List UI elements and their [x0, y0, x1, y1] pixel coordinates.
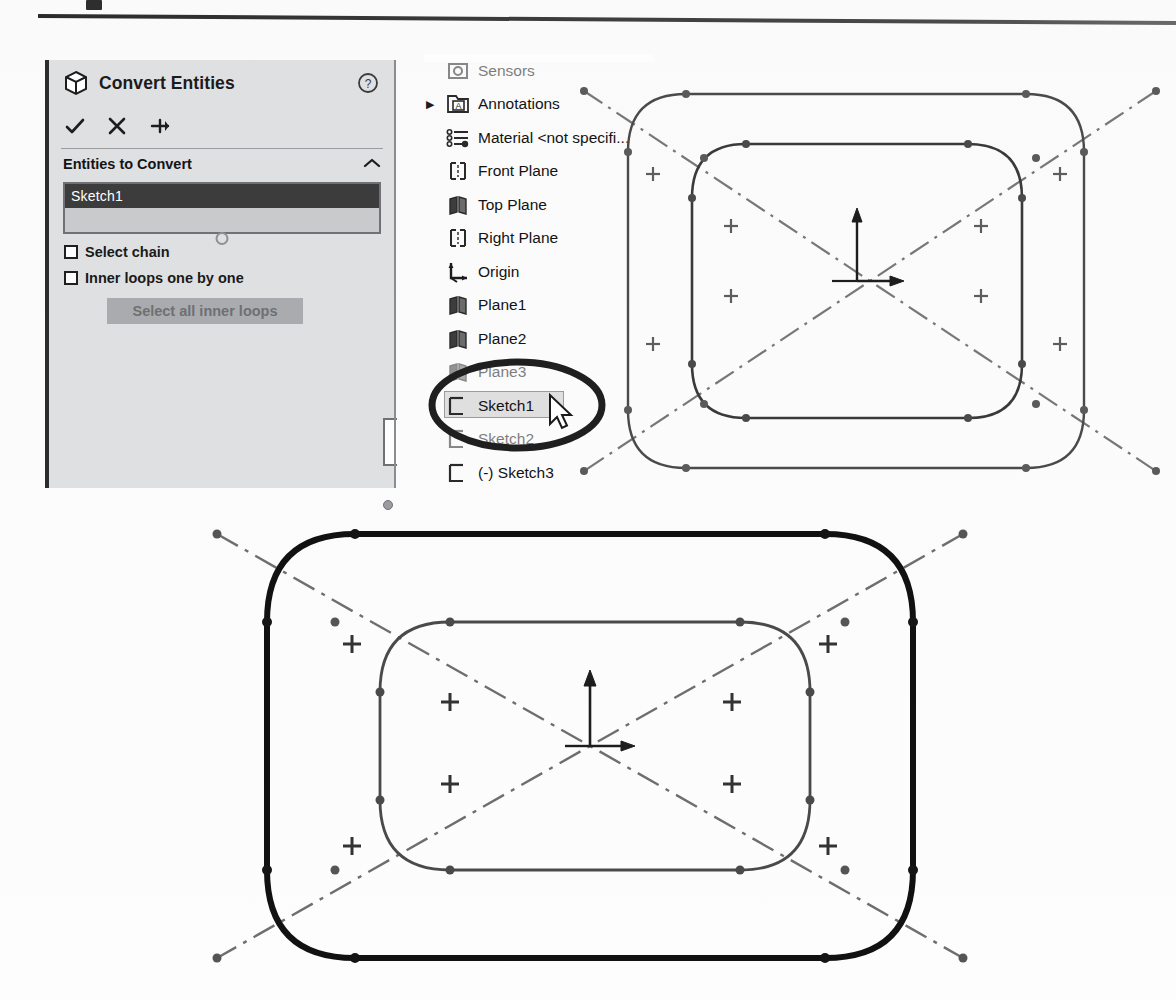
panel-edge-notch	[383, 418, 397, 466]
property-manager-actions	[49, 106, 395, 146]
selection-listbox[interactable]: Sketch1	[63, 182, 381, 234]
svg-text:A: A	[455, 101, 461, 111]
tree-row-label: Right Plane	[478, 229, 558, 247]
origin-icon	[446, 261, 470, 283]
inner-loops-checkbox[interactable]	[64, 271, 78, 285]
page-top-rule	[38, 14, 1176, 25]
sensors-icon	[446, 60, 470, 82]
selection-item[interactable]: Sketch1	[65, 184, 379, 208]
inner-loops-label: Inner loops one by one	[85, 270, 244, 286]
tree-row-label: Sketch2	[478, 430, 534, 448]
panel-edge-dot	[383, 500, 393, 510]
sketch-icon	[446, 428, 470, 450]
page-canvas: Convert Entities ?	[0, 0, 1176, 1000]
plane-front-icon	[446, 160, 470, 182]
selection-resize-handle[interactable]	[216, 232, 229, 245]
sketch-viewport-top	[556, 66, 1176, 496]
group-title: Entities to Convert	[63, 156, 192, 172]
page-top-text-fragment	[86, 0, 102, 10]
tree-row-label: Plane3	[478, 363, 526, 381]
plane-top-icon	[446, 361, 470, 383]
tree-row-label: Top Plane	[478, 196, 547, 214]
entities-to-convert-group-header[interactable]: Entities to Convert	[49, 149, 395, 179]
origin-marker-top	[832, 208, 904, 286]
svg-text:?: ?	[365, 77, 372, 91]
property-manager-header: Convert Entities ?	[49, 60, 395, 106]
panel-title: Convert Entities	[99, 73, 235, 94]
plane-top-icon	[446, 328, 470, 350]
tree-row-label: Annotations	[478, 95, 560, 113]
tree-row-label: Plane2	[478, 330, 526, 348]
select-chain-row[interactable]: Select chain	[49, 244, 395, 260]
plane-top-icon	[446, 194, 470, 216]
material-icon	[446, 127, 470, 149]
annotations-icon: A	[446, 93, 470, 115]
sketch-viewport-bottom	[195, 512, 985, 980]
cancel-x-icon[interactable]	[107, 116, 127, 136]
select-all-inner-loops-button[interactable]: Select all inner loops	[107, 298, 303, 324]
tree-row-label: Front Plane	[478, 162, 558, 180]
sketch-icon	[446, 395, 470, 417]
tree-row-label: (-) Sketch3	[478, 464, 554, 482]
plane-right-icon	[446, 227, 470, 249]
property-manager-panel: Convert Entities ?	[45, 60, 395, 488]
question-mark-icon[interactable]: ?	[357, 72, 379, 94]
chevron-up-icon[interactable]	[363, 155, 381, 173]
pin-icon[interactable]	[149, 116, 171, 136]
tree-clip-mask	[424, 54, 654, 62]
tree-row-label: Plane1	[478, 296, 526, 314]
select-chain-checkbox[interactable]	[64, 245, 78, 259]
plane-top-icon	[446, 294, 470, 316]
tree-row-label: Sketch1	[478, 397, 534, 415]
ok-check-icon[interactable]	[65, 116, 85, 136]
chevron-right-icon[interactable]: ▶	[424, 98, 436, 111]
tree-row-label: Origin	[478, 263, 519, 281]
tree-row-label: Sensors	[478, 62, 535, 80]
sketch-icon	[446, 462, 470, 484]
select-chain-label: Select chain	[85, 244, 170, 260]
cube-icon	[63, 70, 89, 96]
inner-loops-row[interactable]: Inner loops one by one	[49, 270, 395, 286]
